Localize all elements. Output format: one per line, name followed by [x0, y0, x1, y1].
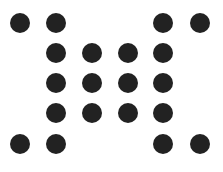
dot: [118, 103, 138, 123]
dot: [46, 103, 66, 123]
dot: [82, 43, 102, 63]
dot: [153, 103, 173, 123]
dot: [10, 134, 30, 154]
dot: [153, 134, 173, 154]
dot: [10, 13, 30, 33]
dot: [82, 73, 102, 93]
dot: [46, 13, 66, 33]
dot: [190, 134, 210, 154]
dot: [153, 73, 173, 93]
dot: [190, 13, 210, 33]
dot: [46, 43, 66, 63]
dot: [153, 13, 173, 33]
dot: [118, 43, 138, 63]
dot: [82, 103, 102, 123]
dot: [46, 73, 66, 93]
dot: [118, 73, 138, 93]
dot: [46, 134, 66, 154]
dot: [153, 43, 173, 63]
